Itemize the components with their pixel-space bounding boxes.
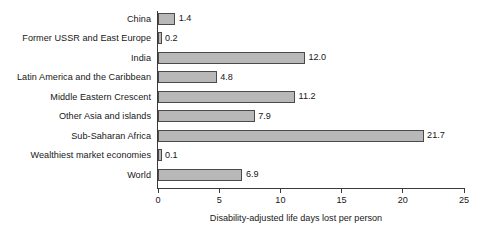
bar-container — [158, 13, 175, 25]
bar-value-label: 1.4 — [179, 12, 192, 25]
bar-value-label: 21.7 — [427, 129, 445, 142]
bar — [158, 71, 217, 83]
bar-row: Middle Eastern Crescent11.2 — [0, 91, 486, 111]
bar-container — [158, 110, 255, 122]
bar-row: India12.0 — [0, 52, 486, 72]
x-axis-tick-label: 0 — [155, 194, 160, 206]
bar — [158, 13, 175, 25]
bar-value-label: 6.9 — [246, 168, 259, 181]
bar-container — [158, 149, 162, 161]
x-axis-tick — [280, 188, 281, 193]
category-label: Other Asia and islands — [0, 110, 151, 123]
bar-container — [158, 71, 217, 83]
bar-row: Sub-Saharan Africa21.7 — [0, 130, 486, 150]
bar-row: World6.9 — [0, 169, 486, 189]
bar-value-label: 0.2 — [165, 32, 178, 45]
category-label: Wealthiest market economies — [0, 149, 151, 162]
x-axis-tick — [341, 188, 342, 193]
bar — [158, 169, 242, 181]
x-axis-title: Disability-adjusted life days lost per p… — [0, 212, 486, 224]
x-axis-title-text: Disability-adjusted life days lost per p… — [210, 213, 382, 223]
bar-container — [158, 52, 305, 64]
bar-value-label: 0.1 — [165, 149, 178, 162]
category-label: Sub-Saharan Africa — [0, 130, 151, 143]
bar-value-label: 7.9 — [258, 110, 271, 123]
x-axis-tick-label: 15 — [337, 194, 347, 206]
x-axis-tick-label: 25 — [459, 194, 469, 206]
bar — [158, 149, 162, 161]
bar-row: Latin America and the Caribbean4.8 — [0, 71, 486, 91]
bar-container — [158, 32, 162, 44]
bar-container — [158, 91, 295, 103]
bar — [158, 91, 295, 103]
bar-row: Other Asia and islands7.9 — [0, 110, 486, 130]
x-axis-tick-label: 10 — [275, 194, 285, 206]
bar-row: Former USSR and East Europe0.2 — [0, 32, 486, 52]
bar-value-label: 12.0 — [308, 51, 326, 64]
x-axis-tick-label: 20 — [398, 194, 408, 206]
category-label: Latin America and the Caribbean — [0, 71, 151, 84]
bar — [158, 52, 305, 64]
bar-value-label: 4.8 — [220, 71, 233, 84]
x-axis-tick — [158, 188, 159, 193]
x-axis-tick — [464, 188, 465, 193]
category-label: China — [0, 13, 151, 26]
x-axis-tick — [219, 188, 220, 193]
x-axis-tick — [402, 188, 403, 193]
bar — [158, 110, 255, 122]
category-label: World — [0, 169, 151, 182]
bar-container — [158, 130, 424, 142]
bar-chart: China1.4Former USSR and East Europe0.2In… — [0, 0, 486, 239]
bar-container — [158, 169, 242, 181]
category-label: Former USSR and East Europe — [0, 32, 151, 45]
bar — [158, 130, 424, 142]
category-label: India — [0, 52, 151, 65]
category-label: Middle Eastern Crescent — [0, 91, 151, 104]
bar-value-label: 11.2 — [299, 90, 316, 103]
bar-row: Wealthiest market economies0.1 — [0, 149, 486, 169]
bar-row: China1.4 — [0, 13, 486, 33]
bar — [158, 32, 162, 44]
x-axis-tick-label: 5 — [217, 194, 222, 206]
